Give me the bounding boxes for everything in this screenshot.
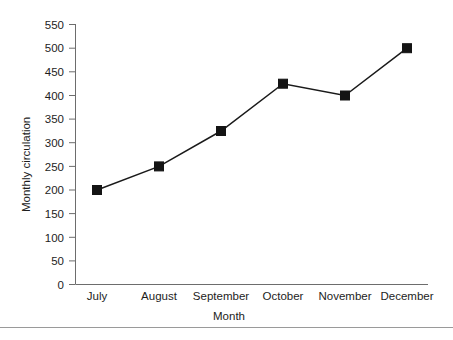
chart-figure: 550 500 450 400 350 300 250 200 150 100 … — [0, 0, 453, 340]
y-tick-label: 300 — [45, 137, 64, 149]
data-point-october — [279, 79, 288, 88]
data-point-december — [403, 44, 412, 53]
x-tick-label-august: August — [141, 290, 178, 302]
chart-background — [0, 0, 453, 340]
data-point-november — [341, 91, 350, 100]
y-tick-label: 150 — [45, 208, 64, 220]
data-point-august — [155, 162, 164, 171]
y-tick-label: 100 — [45, 232, 64, 244]
line-chart-canvas: 550 500 450 400 350 300 250 200 150 100 … — [0, 0, 453, 340]
y-tick-label: 250 — [45, 161, 64, 173]
y-axis-title: Monthly circulation — [20, 117, 32, 212]
y-tick-label: 550 — [45, 19, 64, 31]
y-tick-label: 200 — [45, 184, 64, 196]
y-tick-label: 400 — [45, 90, 64, 102]
x-tick-label-november: November — [318, 290, 371, 302]
x-tick-label-december: December — [380, 290, 433, 302]
y-tick-label: 450 — [45, 66, 64, 78]
data-point-july — [93, 186, 102, 195]
x-tick-label-september: September — [193, 290, 249, 302]
y-tick-label: 0 — [58, 279, 64, 291]
footer-divider — [0, 327, 453, 328]
y-tick-label: 350 — [45, 113, 64, 125]
data-point-september — [217, 127, 226, 136]
x-axis-title: Month — [213, 310, 245, 322]
y-tick-label: 50 — [51, 255, 64, 267]
x-tick-label-july: July — [87, 290, 108, 302]
y-tick-label: 500 — [45, 42, 64, 54]
x-tick-label-october: October — [263, 290, 304, 302]
